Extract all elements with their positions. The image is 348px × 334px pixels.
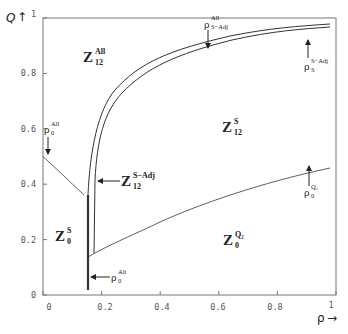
zone-label-z12-s: Z S 12 [222,117,242,137]
y-axis: 0 0.2 0.4 0.6 0.8 1 Q ↑ [6,9,47,300]
x-axis-title: ρ [317,311,325,325]
svg-text:Z: Z [223,232,233,248]
svg-text:Z: Z [121,173,131,189]
y-axis-title: Q [6,11,15,25]
svg-text:Z: Z [222,119,232,135]
svg-text:All: All [51,120,60,127]
svg-text:Z: Z [55,228,65,244]
marker-label-rho0-all: ρ All 0 [44,120,60,136]
svg-text:0: 0 [67,237,71,246]
marker-label-rho-s-sadj: ρ S−Adj S [304,57,328,73]
y-tick-label: 0.6 [21,124,36,134]
y-tick-label: 0.8 [21,68,36,78]
zone-label-z0-s: Z S 0 [55,226,72,246]
marker-label-rho0-alt: ρ Alt 0 [111,268,127,284]
svg-text:S−Adj: S−Adj [133,171,155,180]
svg-text:Q₂: Q₂ [235,230,244,239]
curve-rho-s-sadj [94,27,330,253]
y-tick-label: 0 [31,290,36,300]
svg-text:S−Adj: S−Adj [211,23,228,30]
svg-text:S: S [234,117,239,126]
x-axis-arrow: → [327,311,337,325]
x-tick-label: 0 [46,302,51,312]
marker-label-rho0-q2: ρ Q₂ 0 [304,183,318,199]
svg-text:0: 0 [235,241,239,250]
curve-rho0-all [43,157,84,196]
svg-text:S: S [311,66,315,73]
zone-label-z12-all: Z All 12 [83,47,106,67]
x-tick-label: 1 [328,300,333,310]
y-tick-label: 0.4 [21,179,36,189]
marker-label-rho-sadj-all: ρ All S−Adj [204,14,228,30]
phase-diagram: 0 0.2 0.4 0.6 0.8 1 Q ↑ 0 0.2 0.4 0.6 0.… [0,0,348,334]
svg-text:All: All [211,14,220,21]
y-axis-arrow: ↑ [17,10,27,24]
svg-text:0: 0 [51,129,54,136]
svg-text:S−Adj: S−Adj [311,57,328,64]
svg-text:S: S [67,226,72,235]
svg-text:ρ: ρ [111,271,117,283]
svg-text:ρ: ρ [304,186,310,198]
zone-label-z12-sadj: Z S−Adj 12 [121,171,155,191]
zone-label-z0-q2: Z Q₂ 0 [223,230,244,250]
x-tick-label: 0.6 [210,302,225,312]
x-tick-label: 0.2 [97,302,112,312]
svg-text:ρ: ρ [204,18,210,30]
svg-text:0: 0 [118,277,121,284]
svg-text:0: 0 [311,192,314,199]
x-tick-label: 0.8 [267,302,282,312]
svg-text:Q₂: Q₂ [311,183,318,190]
svg-text:12: 12 [234,128,242,137]
x-tick-label: 0.4 [154,302,169,312]
x-axis: 0 0.2 0.4 0.6 0.8 1 ρ → [43,291,337,325]
curve-rho-sadj-all [88,24,330,195]
svg-text:12: 12 [95,58,103,67]
svg-text:12: 12 [133,182,141,191]
y-tick-label: 0.2 [21,235,36,245]
svg-text:All: All [95,47,106,56]
svg-text:ρ: ρ [44,123,50,135]
svg-text:Z: Z [83,49,93,65]
y-tick-label: 1 [31,9,36,19]
svg-text:ρ: ρ [304,60,310,72]
svg-text:Alt: Alt [118,268,127,275]
